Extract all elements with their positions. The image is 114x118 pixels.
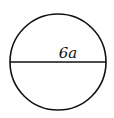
diameter-label: 6a: [59, 44, 78, 62]
circle-diagram: 6a: [0, 0, 114, 118]
